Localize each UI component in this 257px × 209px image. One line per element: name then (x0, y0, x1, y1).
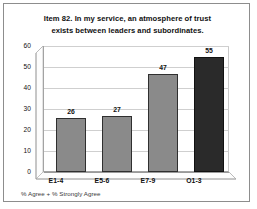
ytick-60: 60 (13, 42, 31, 49)
xtick-e7-9: E7-9 (126, 177, 170, 184)
bar-e1-4[interactable] (56, 118, 86, 172)
chart-annotation: % Agree + % Strongly Agree (21, 190, 101, 197)
bar-e5-6[interactable] (102, 116, 132, 172)
bar-e7-9[interactable] (148, 74, 178, 172)
bar-value-label-3: 55 (188, 47, 230, 54)
ytick-20: 20 (13, 126, 31, 133)
ytick-40: 40 (13, 84, 31, 91)
chart-frame: Item 82. In my service, an atmosphere of… (3, 3, 250, 202)
chart-title-line1: Item 82. In my service, an atmosphere of… (44, 14, 211, 23)
bar-o1-3[interactable] (194, 57, 224, 172)
bar-value-label-0: 26 (50, 108, 92, 115)
ytick-30: 30 (13, 105, 31, 112)
gridline-0 (44, 172, 229, 173)
plot-area: 60 50 40 30 20 10 0 26 27 47 55 (17, 41, 239, 186)
bar-series: 26 27 47 55 (44, 47, 229, 172)
bar-value-label-1: 27 (96, 106, 138, 113)
ytick-50: 50 (13, 63, 31, 70)
xtick-o1-3: O1-3 (172, 177, 216, 184)
bar-value-label-2: 47 (142, 64, 184, 71)
xtick-e5-6: E5-6 (80, 177, 124, 184)
chart-title-line2: exists between leaders and subordinates. (4, 25, 251, 37)
xtick-e1-4: E1-4 (34, 177, 78, 184)
ytick-0: 0 (13, 168, 31, 175)
ytick-10: 10 (13, 147, 31, 154)
chart-title: Item 82. In my service, an atmosphere of… (4, 13, 251, 36)
